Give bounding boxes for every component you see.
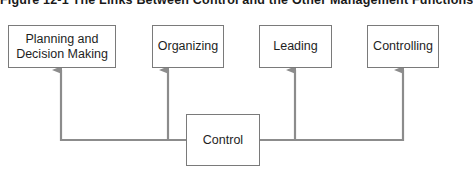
node-control: Control xyxy=(186,114,260,166)
node-leading: Leading xyxy=(259,25,332,68)
node-control-label: Control xyxy=(203,133,243,148)
node-planning-label-line1: Planning and xyxy=(16,32,108,47)
node-organizing-label: Organizing xyxy=(158,39,218,54)
node-controlling-label: Controlling xyxy=(373,39,433,54)
node-planning-label-line2: Decision Making xyxy=(16,47,108,62)
node-planning: Planning and Decision Making xyxy=(8,25,116,68)
node-leading-label: Leading xyxy=(273,39,318,54)
node-organizing: Organizing xyxy=(152,25,224,68)
node-controlling: Controlling xyxy=(367,25,439,68)
